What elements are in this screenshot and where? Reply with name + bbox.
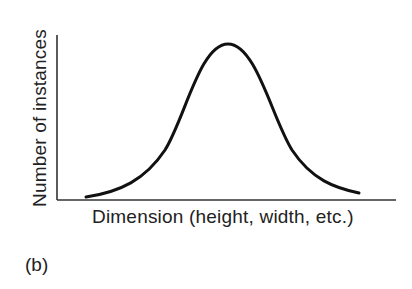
x-axis-label: Dimension (height, width, etc.) <box>92 206 354 228</box>
chart-plot <box>0 0 412 289</box>
y-axis-label: Number of instances <box>29 29 51 207</box>
panel-label: (b) <box>25 254 48 276</box>
distribution-curve <box>86 44 359 197</box>
figure: Number of instances Dimension (height, w… <box>0 0 412 289</box>
